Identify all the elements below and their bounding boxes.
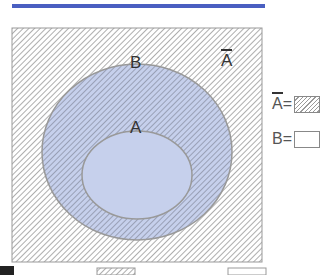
- set-b-label: B: [130, 54, 141, 71]
- set-a-label: A: [130, 119, 141, 136]
- legend-set-b: B =: [272, 130, 320, 148]
- hatched-swatch-icon: [294, 96, 320, 113]
- legend-symbol: A: [272, 95, 283, 113]
- universe-label: A: [221, 52, 232, 69]
- legend-equals: =: [283, 130, 292, 148]
- complement-a-label: A: [221, 52, 232, 69]
- blank-swatch-icon: [294, 131, 320, 148]
- set-a-ellipse: [82, 131, 192, 219]
- legend-equals: =: [283, 95, 292, 113]
- legend-complement-a: A =: [272, 95, 320, 113]
- legend-symbol: B: [272, 130, 283, 148]
